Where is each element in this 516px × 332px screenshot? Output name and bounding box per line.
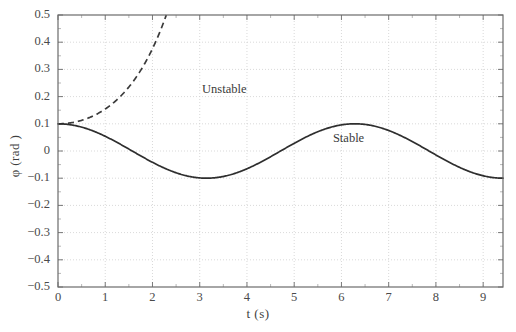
y-axis-tick-label: −0.5 [12,279,50,294]
x-axis-tick-label: 8 [424,290,448,305]
x-axis-label: t (s) [0,306,516,322]
y-axis-tick-label: −0.4 [12,252,50,267]
x-axis-tick-label: 3 [188,290,212,305]
y-axis-label-wrapper: φ (rad ) [2,130,26,190]
x-axis-tick-label: 9 [471,290,495,305]
y-axis-tick-label: 0.2 [12,89,50,104]
x-axis-tick-label: 7 [377,290,401,305]
chart-figure: 0.50.40.30.20.10−0.1−0.2−0.3−0.4−0.5 012… [0,0,516,332]
y-axis-tick-label: 0.5 [12,7,50,22]
y-axis-tick-label: 0.3 [12,61,50,76]
y-axis-tick-label: 0.4 [12,34,50,49]
x-axis-tick-label: 6 [329,290,353,305]
x-axis-tick-label: 5 [282,290,306,305]
curve-label-stable: Stable [333,131,364,146]
y-axis-label: φ (rad ) [7,111,23,201]
x-axis-tick-label: 1 [93,290,117,305]
curve-label-unstable: Unstable [202,82,246,97]
x-axis-tick-label: 0 [46,290,70,305]
y-axis-tick-label: −0.3 [12,225,50,240]
x-axis-tick-label: 4 [235,290,259,305]
x-axis-tick-label: 2 [140,290,164,305]
plot-canvas [0,0,516,332]
